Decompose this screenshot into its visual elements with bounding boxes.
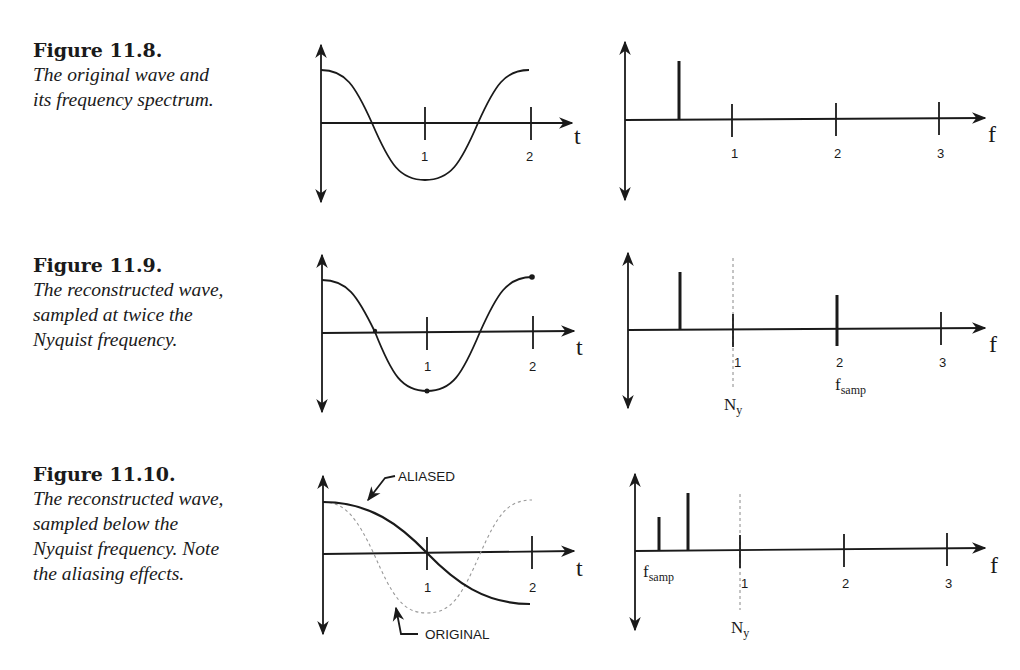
t-axis-label: t — [574, 123, 581, 149]
tick-label-3: 3 — [945, 576, 952, 591]
tick-label-2: 2 — [529, 580, 536, 595]
time-domain-plot-11-8: 1 2 t — [300, 30, 600, 220]
frequency-spectrum-11-9: 1 2 3 f fsamp Ny — [600, 240, 1020, 440]
sample-point — [425, 389, 430, 394]
tick-label-1: 1 — [424, 359, 431, 374]
tick-label-2: 2 — [836, 355, 843, 370]
original-label: ORIGINAL — [425, 627, 490, 642]
caption-line: The original wave and — [33, 62, 293, 87]
sample-point — [529, 274, 535, 280]
tick-label-1: 1 — [424, 580, 431, 595]
nyquist-label: Ny — [724, 395, 742, 417]
time-domain-plot-11-10: 1 2 t ALIASED ORIGINAL — [300, 450, 600, 670]
caption-line: The reconstructed wave, — [33, 486, 293, 511]
frequency-spectrum-11-10: 1 2 3 f fsamp Ny — [600, 450, 1020, 670]
figure-caption-11-9: Figure 11.9. The reconstructed wave, sam… — [33, 253, 293, 352]
caption-line: Nyquist frequency. — [33, 327, 293, 352]
t-axis-label: t — [576, 555, 583, 581]
aliased-pointer-arrow — [368, 476, 395, 500]
caption-line: sampled below the — [33, 511, 293, 536]
figure-caption-11-10: Figure 11.10. The reconstructed wave, sa… — [33, 462, 293, 586]
t-axis — [322, 331, 574, 333]
tick-label-2: 2 — [842, 576, 849, 591]
sample-point — [373, 329, 377, 333]
caption-line: sampled at twice the — [33, 302, 293, 327]
figure-title: Figure 11.8. — [33, 38, 293, 62]
tick-label-3: 3 — [939, 355, 946, 370]
f-axis — [628, 328, 985, 330]
tick-label-3: 3 — [937, 146, 944, 161]
caption-line: The reconstructed wave, — [33, 277, 293, 302]
tick-label-1: 1 — [421, 149, 428, 164]
figure-title: Figure 11.9. — [33, 253, 293, 277]
fsamp-label: fsamp — [835, 375, 866, 397]
tick-label-1: 1 — [731, 146, 738, 161]
tick-label-2: 2 — [529, 359, 536, 374]
tick-label-2: 2 — [834, 146, 841, 161]
caption-line: the aliasing effects. — [33, 561, 293, 586]
t-axis — [323, 551, 574, 554]
t-axis-label: t — [576, 334, 583, 360]
tick-label-1: 1 — [741, 576, 748, 591]
aliased-label: ALIASED — [398, 469, 455, 484]
original-pointer-arrow — [396, 608, 418, 634]
figure-caption-11-8: Figure 11.8. The original wave and its f… — [33, 38, 293, 112]
frequency-spectrum-11-8: 1 2 3 f — [600, 30, 1020, 220]
f-axis-label: f — [989, 331, 997, 357]
fsamp-label: fsamp — [643, 562, 674, 584]
nyquist-label: Ny — [731, 618, 749, 640]
f-axis-label: f — [990, 552, 998, 578]
tick-label-2: 2 — [526, 149, 533, 164]
figure-title: Figure 11.10. — [33, 462, 293, 486]
time-domain-plot-11-9: 1 2 t — [300, 240, 600, 430]
caption-line: Nyquist frequency. Note — [33, 536, 293, 561]
caption-line: its frequency spectrum. — [33, 87, 293, 112]
tick-label-1: 1 — [734, 355, 741, 370]
f-axis-label: f — [988, 121, 996, 147]
